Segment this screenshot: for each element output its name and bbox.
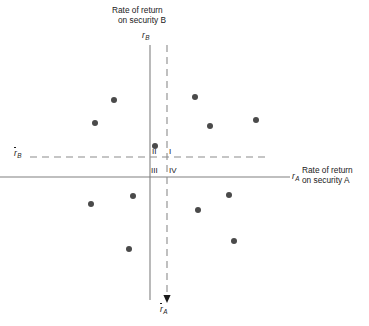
data-point bbox=[195, 207, 201, 213]
data-point bbox=[130, 193, 136, 199]
overbar-decoration bbox=[14, 147, 16, 148]
data-point bbox=[231, 238, 237, 244]
quadrant-label-two: II bbox=[152, 147, 156, 156]
horizontal-axis-caption-line2: on security A bbox=[302, 176, 353, 186]
data-point bbox=[253, 117, 259, 123]
horizontal-axis-symbol-subscript: A bbox=[295, 175, 299, 182]
mean-return-a-subscript: A bbox=[163, 308, 167, 315]
quadrant-label-four: IV bbox=[169, 166, 177, 175]
plot-canvas bbox=[0, 0, 369, 326]
reference-line-layer bbox=[30, 45, 266, 303]
data-point bbox=[88, 201, 94, 207]
mean-return-b-subscript: B bbox=[17, 152, 21, 159]
scatter-diagram-figure: Rate of return on security B rB rA Rate … bbox=[0, 0, 369, 326]
data-point bbox=[92, 120, 98, 126]
vertical-axis-caption: Rate of return on security B bbox=[112, 6, 166, 26]
mean-return-b-label: rB bbox=[14, 148, 21, 158]
mean-return-a-arrowhead bbox=[163, 295, 170, 303]
data-point bbox=[111, 97, 117, 103]
vertical-axis-symbol: rB bbox=[142, 30, 149, 40]
quadrant-label-three: III bbox=[151, 166, 158, 175]
horizontal-axis-symbol: rA bbox=[292, 171, 299, 181]
quadrant-label-one: I bbox=[169, 147, 171, 156]
data-point bbox=[226, 192, 232, 198]
mean-return-a-label: rA bbox=[160, 304, 167, 314]
data-point bbox=[207, 123, 213, 129]
overbar-decoration bbox=[160, 303, 162, 304]
horizontal-axis-caption: Rate of return on security A bbox=[302, 166, 353, 186]
vertical-axis-caption-line2: on security B bbox=[112, 16, 166, 26]
data-point bbox=[126, 246, 132, 252]
axis-layer bbox=[0, 45, 290, 300]
data-point bbox=[192, 94, 198, 100]
vertical-axis-symbol-subscript: B bbox=[145, 34, 149, 41]
